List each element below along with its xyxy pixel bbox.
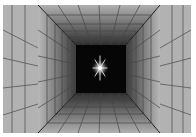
right-wall-front xyxy=(160,5,191,133)
left-wall-front xyxy=(3,5,38,133)
tunnel-scene xyxy=(0,0,196,137)
